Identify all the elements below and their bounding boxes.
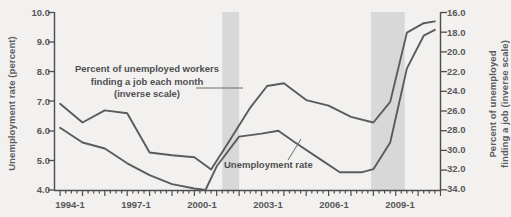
y-axis-right-ticks <box>441 13 447 190</box>
x-axis-ticks <box>60 191 440 197</box>
job-finding-annotation-line3: (inverse scale) <box>114 88 180 99</box>
job-finding-annotation-line2: finding a job each month <box>91 76 203 87</box>
job-finding-annotation-line1: Percent of unemployed workers <box>75 63 219 74</box>
job-finding-annotation: Percent of unemployed workersfinding a j… <box>64 63 230 101</box>
unemployment-rate-annotation: Unemployment rate <box>224 159 313 172</box>
y-axis-left-ticks <box>48 13 54 191</box>
